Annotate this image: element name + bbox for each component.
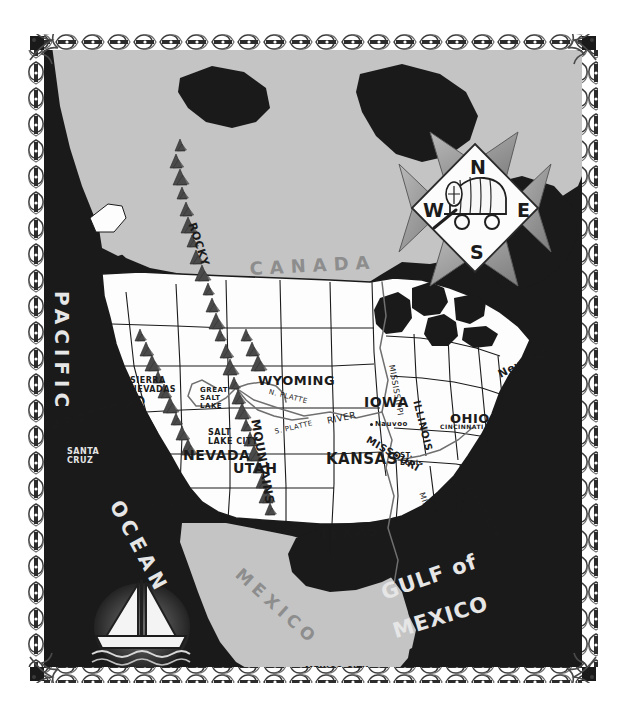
map-illustration: PACIFICOCEANGULF ofMEXICOCANADAMEXICOCAL… bbox=[0, 0, 625, 717]
city-dot bbox=[395, 454, 398, 457]
city-dot bbox=[300, 669, 303, 672]
map-plate: PACIFICOCEANGULF ofMEXICOCANADAMEXICOCAL… bbox=[30, 36, 596, 681]
map-geography-layer bbox=[30, 36, 596, 681]
city-dot bbox=[370, 423, 373, 426]
city-dot bbox=[145, 494, 148, 497]
